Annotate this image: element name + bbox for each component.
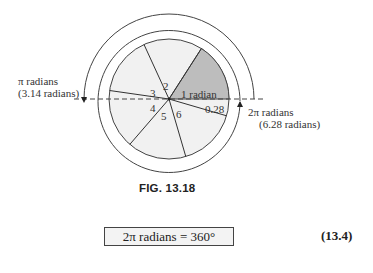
label-segment-4: 4 xyxy=(150,102,156,114)
two-pi-label: 2π radians xyxy=(248,106,294,118)
pi-value-label: (3.14 radians) xyxy=(18,87,79,99)
equation-number: (13.4) xyxy=(321,228,352,244)
figure-caption: FIG. 13.18 xyxy=(139,182,195,194)
pi-arrow-icon xyxy=(81,97,87,103)
two-pi-value-label: (6.28 radians) xyxy=(259,118,320,130)
center-point xyxy=(168,98,171,101)
pi-label: π radians xyxy=(18,75,58,87)
label-segment-6: 6 xyxy=(176,108,182,120)
label-segment-3: 3 xyxy=(150,87,156,99)
equation-box: 2π radians = 360° xyxy=(104,227,234,246)
label-segment-2: 2 xyxy=(163,80,169,92)
label-1-radian: 1 radian xyxy=(181,88,217,100)
label-segment-5: 5 xyxy=(161,110,167,122)
two-pi-arrow-icon xyxy=(237,101,243,107)
label-remainder: 0.28 xyxy=(205,103,224,115)
